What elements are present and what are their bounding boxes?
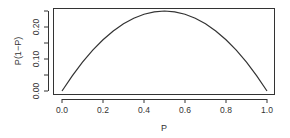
data-line	[62, 11, 267, 91]
plot-frame	[54, 9, 275, 95]
x-axis-label: P	[161, 123, 167, 133]
chart: 0.000.100.20 0.00.20.40.60.81.0 P P(1−P)	[0, 0, 290, 138]
x-tick-label: 0.0	[56, 105, 68, 115]
x-tick-label: 0.8	[220, 105, 232, 115]
y-tick-label: 0.20	[31, 18, 41, 35]
y-tick-label: 0.10	[31, 50, 41, 67]
y-axis-label: P(1−P)	[13, 37, 23, 65]
x-tick-label: 0.4	[138, 105, 150, 115]
x-axis: 0.00.20.40.60.81.0	[56, 99, 273, 115]
x-tick-label: 0.2	[97, 105, 109, 115]
x-tick-label: 1.0	[261, 105, 273, 115]
x-tick-label: 0.6	[179, 105, 191, 115]
y-axis: 0.000.100.20	[31, 11, 49, 99]
y-tick-label: 0.00	[31, 82, 41, 99]
